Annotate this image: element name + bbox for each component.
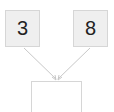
- right-arrow-line: [58, 48, 90, 79]
- right-number: 8: [85, 17, 96, 40]
- number-box-left: 3: [5, 10, 40, 47]
- left-number: 3: [17, 17, 28, 40]
- number-box-right: 8: [73, 10, 108, 47]
- left-arrow-line: [24, 48, 56, 79]
- answer-box[interactable]: [31, 81, 82, 112]
